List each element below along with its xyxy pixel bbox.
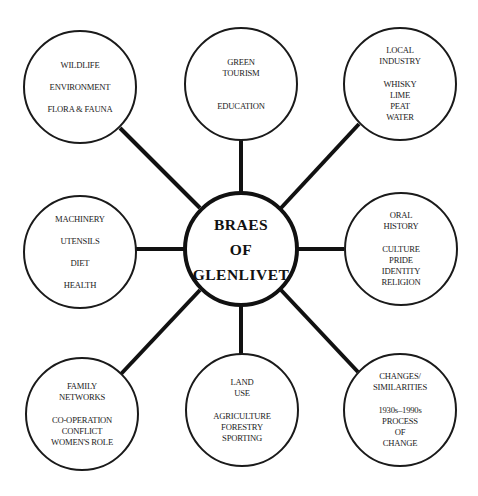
node-line: WILDLIFE — [61, 60, 100, 71]
mind-map-diagram: WILDLIFE ENVIRONMENT FLORA & FAUNA GREEN… — [0, 0, 478, 496]
node-item: CONFLICT — [62, 426, 102, 437]
node-wildlife: WILDLIFE ENVIRONMENT FLORA & FAUNA — [23, 30, 137, 144]
node-item: LIME — [390, 90, 410, 101]
node-heading: CHANGES/ — [379, 371, 420, 382]
node-oral-history: ORAL HISTORY CULTURE PRIDE IDENTITY RELI… — [344, 192, 458, 306]
node-item: AGRICULTURE — [213, 411, 271, 422]
node-machinery: MACHINERY UTENSILS DIET HEALTH — [23, 195, 137, 309]
node-heading: ORAL — [390, 210, 413, 221]
node-line: HEALTH — [64, 280, 96, 291]
node-item: IDENTITY — [382, 266, 421, 277]
node-heading: NETWORKS — [59, 392, 105, 403]
node-item: EDUCATION — [217, 101, 264, 112]
node-heading: LOCAL — [386, 45, 414, 56]
central-topic-braes-of-glenlivet: BRAES OF GLENLIVET — [183, 191, 299, 307]
node-item: FORESTRY — [221, 422, 263, 433]
node-family-networks: FAMILY NETWORKS CO-OPERATION CONFLICT WO… — [25, 357, 139, 471]
node-item: WATER — [386, 112, 414, 123]
node-heading: LAND — [230, 377, 253, 388]
node-line: DIET — [71, 258, 90, 269]
node-heading: HISTORY — [383, 221, 418, 232]
connector-bottom-left — [121, 290, 200, 374]
node-line: UTENSILS — [61, 236, 100, 247]
connector-top-left — [120, 128, 200, 208]
node-item: OF — [395, 427, 406, 438]
node-item: 1930s–1990s — [378, 405, 421, 416]
connector-top-right — [281, 124, 359, 208]
node-heading: GREEN — [227, 57, 255, 68]
node-item: WHISKY — [383, 79, 416, 90]
node-item: CHANGE — [383, 438, 418, 449]
node-line: FLORA & FAUNA — [47, 104, 112, 115]
central-title-line: GLENLIVET — [193, 262, 290, 287]
node-land-use: LAND USE AGRICULTURE FORESTRY SPORTING — [185, 353, 299, 467]
node-item: WOMEN'S ROLE — [51, 437, 113, 448]
node-item: CO-OPERATION — [52, 415, 112, 426]
central-title-line: OF — [230, 237, 253, 262]
node-item: CULTURE — [382, 244, 419, 255]
node-heading: FAMILY — [67, 381, 97, 392]
node-heading: INDUSTRY — [379, 56, 420, 67]
node-item: SPORTING — [222, 433, 262, 444]
node-item: PEAT — [390, 101, 410, 112]
node-line: MACHINERY — [55, 214, 105, 225]
node-line: ENVIRONMENT — [50, 82, 111, 93]
node-item: PRIDE — [389, 255, 413, 266]
node-green-tourism: GREEN TOURISM EDUCATION — [184, 27, 298, 141]
node-heading: USE — [234, 388, 250, 399]
node-changes-similarities: CHANGES/ SIMILARITIES 1930s–1990s PROCES… — [343, 353, 457, 467]
node-heading: SIMILARITIES — [373, 382, 427, 393]
node-heading: TOURISM — [222, 68, 259, 79]
node-item: RELIGION — [382, 277, 421, 288]
node-item: PROCESS — [382, 416, 418, 427]
central-title-line: BRAES — [214, 212, 268, 237]
node-local-industry: LOCAL INDUSTRY WHISKY LIME PEAT WATER — [343, 27, 457, 141]
connector-bottom-right — [281, 290, 358, 372]
